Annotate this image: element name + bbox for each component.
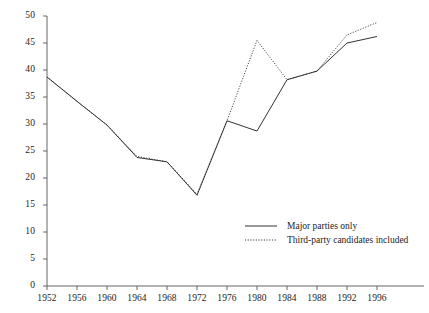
y-axis-tick-label: 0 [13, 280, 35, 290]
y-axis-tick-label: 30 [13, 118, 35, 128]
y-axis-tick-label: 20 [13, 172, 35, 182]
x-axis-tick-label: 1988 [300, 293, 334, 303]
legend-item-third-party-candidates-included: Third-party candidates included [244, 233, 424, 247]
line-chart: 05101520253035404550 1952195619601964196… [0, 0, 429, 313]
legend-label-major-parties-only: Major parties only [278, 219, 357, 233]
y-axis-tick-label: 10 [13, 226, 35, 236]
y-axis-tick-label: 45 [13, 37, 35, 47]
x-axis-ticks [47, 286, 377, 290]
y-axis-tick-label: 5 [13, 253, 35, 263]
chart-legend: Major parties only Third-party candidate… [244, 219, 424, 247]
y-axis-tick-label: 15 [13, 199, 35, 209]
x-axis-tick-label: 1976 [210, 293, 244, 303]
x-axis-tick-label: 1968 [150, 293, 184, 303]
x-axis-tick-label: 1960 [90, 293, 124, 303]
x-axis-tick-label: 1980 [240, 293, 274, 303]
series-line [47, 37, 377, 196]
x-axis-tick-label: 1956 [60, 293, 94, 303]
y-axis-tick-label: 35 [13, 91, 35, 101]
y-axis-ticks [43, 16, 47, 286]
x-axis-tick-label: 1952 [30, 293, 64, 303]
x-axis-tick-label: 1984 [270, 293, 304, 303]
y-axis-tick-label: 40 [13, 64, 35, 74]
x-axis-tick-label: 1992 [330, 293, 364, 303]
y-axis-tick-label: 50 [13, 10, 35, 20]
legend-item-major-parties-only: Major parties only [244, 219, 424, 233]
x-axis-tick-label: 1964 [120, 293, 154, 303]
data-series-layer [47, 22, 377, 195]
x-axis-tick-label: 1996 [360, 293, 394, 303]
y-axis-tick-label: 25 [13, 145, 35, 155]
legend-dotted-line-icon [244, 235, 278, 245]
x-axis-tick-label: 1972 [180, 293, 214, 303]
legend-solid-line-icon [244, 221, 278, 231]
plot-area [0, 0, 429, 313]
series-line [47, 22, 377, 194]
legend-label-third-party-candidates-included: Third-party candidates included [278, 233, 408, 247]
